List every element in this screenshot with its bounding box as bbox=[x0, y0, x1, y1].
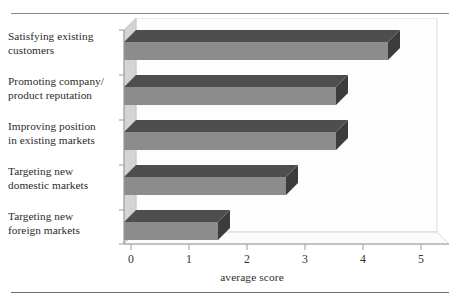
category-label-line: Improving position bbox=[8, 120, 120, 134]
bar-improving-position-in-existing-markets bbox=[124, 120, 348, 150]
category-label-line: Satisfying existing bbox=[8, 30, 120, 44]
bottom-divider-rule bbox=[11, 292, 449, 293]
bar-top-face bbox=[124, 165, 298, 177]
category-label-line: foreign markets bbox=[8, 224, 120, 238]
bar-targeting-new-domestic-markets bbox=[124, 165, 298, 195]
category-label-line: domestic markets bbox=[8, 179, 120, 193]
tick-label-4: 4 bbox=[351, 252, 375, 267]
category-label-line: customers bbox=[8, 44, 120, 58]
bar-front-face bbox=[124, 42, 388, 60]
tick-label-1: 1 bbox=[177, 252, 201, 267]
category-label-improving-position-in-existing-markets: Improving position in existing markets bbox=[8, 120, 120, 147]
bar-targeting-new-foreign-markets bbox=[124, 210, 230, 240]
bar-satisfying-existing-customers bbox=[124, 30, 400, 60]
category-label-targeting-new-foreign-markets: Targeting new foreign markets bbox=[8, 210, 120, 237]
bar-top-face bbox=[124, 210, 230, 222]
bar-top-face bbox=[124, 75, 348, 87]
chart-figure: Satisfying existing customers Promoting … bbox=[0, 0, 460, 300]
bar-top-face bbox=[124, 30, 400, 42]
tick-label-2: 2 bbox=[235, 252, 259, 267]
category-label-satisfying-existing-customers: Satisfying existing customers bbox=[8, 30, 120, 57]
tick-label-0: 0 bbox=[119, 252, 143, 267]
bar-front-face bbox=[124, 132, 336, 150]
x-axis-title: average score bbox=[0, 271, 460, 283]
category-label-promoting-company-product-reputation: Promoting company/ product reputation bbox=[8, 75, 120, 102]
bar-front-face bbox=[124, 222, 218, 240]
category-label-line: Promoting company/ bbox=[8, 75, 120, 89]
category-label-targeting-new-domestic-markets: Targeting new domestic markets bbox=[8, 165, 120, 192]
tick-label-5: 5 bbox=[409, 252, 433, 267]
category-label-line: product reputation bbox=[8, 89, 120, 103]
bar-front-face bbox=[124, 87, 336, 105]
tick-label-3: 3 bbox=[293, 252, 317, 267]
category-label-line: Targeting new bbox=[8, 165, 120, 179]
value-axis bbox=[124, 244, 449, 250]
category-label-group: Satisfying existing customers Promoting … bbox=[0, 18, 118, 246]
bar-front-face bbox=[124, 177, 286, 195]
bar-top-face bbox=[124, 120, 348, 132]
category-label-line: Targeting new bbox=[8, 210, 120, 224]
top-divider-rule bbox=[11, 13, 449, 14]
x-axis-title-text: average score bbox=[176, 271, 284, 283]
bar-promoting-company-product-reputation bbox=[124, 75, 348, 105]
category-label-line: in existing markets bbox=[8, 134, 120, 148]
